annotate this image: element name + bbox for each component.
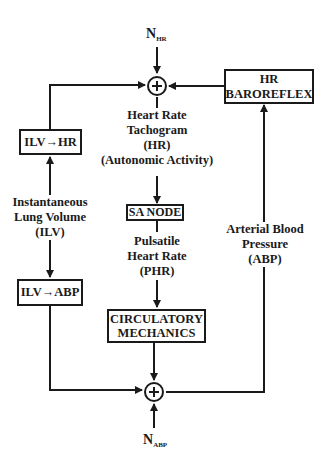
circulatory-line2: MECHANICS <box>118 326 196 340</box>
abp-line1: Arterial Blood <box>222 222 308 237</box>
hr-baroreflex-box: HR BAROREFLEX <box>224 69 314 104</box>
noise-abp-label: NABP <box>143 432 167 449</box>
ilv-label: Instantaneous Lung Volume (ILV) <box>8 195 92 240</box>
noise-hr-label: NHR <box>146 26 167 43</box>
hr-tachogram-line4: (Autonomic Activity) <box>97 153 217 168</box>
hr-tachogram-line1: Heart Rate <box>97 108 217 123</box>
abp-line3: (ABP) <box>222 252 308 267</box>
sum-junction-top <box>147 76 167 96</box>
ilv-line2: Lung Volume <box>8 210 92 225</box>
circulatory-mechanics-box: CIRCULATORY MECHANICS <box>107 309 206 343</box>
phr-label: Pulsatile Heart Rate (PHR) <box>120 234 194 279</box>
sa-node-box: SA NODE <box>126 204 184 221</box>
hr-baroreflex-line1: HR <box>260 72 279 86</box>
ilv-line1: Instantaneous <box>8 195 92 210</box>
hr-baroreflex-line2: BAROREFLEX <box>226 87 313 101</box>
abp-label: Arterial Blood Pressure (ABP) <box>222 222 308 267</box>
noise-hr-subscript: HR <box>156 35 167 43</box>
phr-line1: Pulsatile <box>120 234 194 249</box>
phr-line2: Heart Rate <box>120 249 194 264</box>
ilv-abp-text: ILV→ABP <box>21 285 80 299</box>
hr-tachogram-line2: Tachogram <box>97 123 217 138</box>
abp-line2: Pressure <box>222 237 308 252</box>
noise-abp-subscript: ABP <box>153 441 167 449</box>
ilv-line3: (ILV) <box>8 225 92 240</box>
ilv-hr-text: ILV→HR <box>24 135 76 149</box>
sum-junction-bottom <box>144 382 164 402</box>
hr-tachogram-line3: (HR) <box>97 138 217 153</box>
hr-tachogram-label: Heart Rate Tachogram (HR) (Autonomic Act… <box>97 108 217 168</box>
circulatory-line1: CIRCULATORY <box>110 312 203 326</box>
noise-abp-symbol: N <box>143 432 153 447</box>
ilv-hr-box: ILV→HR <box>19 129 82 155</box>
ilv-abp-box: ILV→ABP <box>17 279 83 306</box>
sa-node-text: SA NODE <box>129 206 181 220</box>
noise-hr-symbol: N <box>146 26 156 41</box>
phr-line3: (PHR) <box>120 264 194 279</box>
